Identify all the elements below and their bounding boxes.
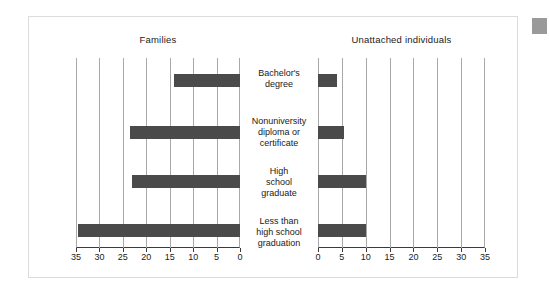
tick-label: 15 [165,252,175,262]
bar [318,126,344,139]
tick-label: 0 [315,252,320,262]
gridline [342,58,343,248]
right-panel-frame [318,58,485,248]
right-panel-title: Unattached individuals [318,34,485,45]
tick-label: 30 [94,252,104,262]
unattached-plot-panel [318,58,485,248]
gridline [366,58,367,248]
gridline [146,58,147,248]
bar [318,74,337,87]
gridline [390,58,391,248]
category-label: Less thanhigh schoolgraduation [240,216,318,249]
tick-label: 5 [214,252,219,262]
bar [174,74,240,87]
gridline [461,58,462,248]
corner-marker-square [532,18,547,34]
tick-label: 10 [188,252,198,262]
families-plot-panel [76,58,240,248]
tick-label: 15 [385,252,395,262]
gridline [437,58,438,248]
bar [318,224,366,237]
tick-label: 35 [480,252,490,262]
tick-label: 20 [408,252,418,262]
tick-label: 20 [141,252,151,262]
gridline [170,58,171,248]
tick-label: 0 [237,252,242,262]
tick-label: 30 [456,252,466,262]
tick-label: 25 [118,252,128,262]
bar [132,175,240,188]
tick-label: 35 [71,252,81,262]
bar [78,224,240,237]
category-label: Highschoolgraduate [240,166,318,199]
gridline [413,58,414,248]
bar [318,175,366,188]
bar [130,126,240,139]
category-labels-group: Bachelor'sdegreeNonuniversitydiploma orc… [240,58,318,248]
tick-label: 5 [339,252,344,262]
tick-label: 10 [361,252,371,262]
left-panel-title: Families [76,34,240,45]
tick-label: 25 [432,252,442,262]
gridline [99,58,100,248]
category-label: Bachelor'sdegree [240,68,318,90]
category-label: Nonuniversitydiploma orcertificate [240,116,318,149]
gridline [123,58,124,248]
